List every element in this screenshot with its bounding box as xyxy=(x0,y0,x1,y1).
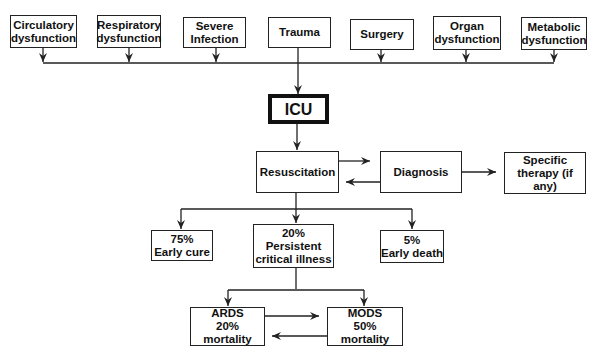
cause-severe-infection: Severe Infection xyxy=(183,17,246,48)
specific-therapy-box: Specific therapy (if any) xyxy=(504,152,586,194)
diagnosis-box: Diagnosis xyxy=(380,151,462,193)
outcome-label: 75% Early cure xyxy=(154,233,210,259)
cause-surgery: Surgery xyxy=(350,19,414,50)
outcome-persistent-critical-illness: 20% Persistent critical illness xyxy=(253,224,334,268)
complication-label: ARDS 20% mortality xyxy=(191,307,264,346)
cause-respiratory-dysfunction: Respiratory dysfunction xyxy=(97,15,161,48)
outcome-label: 5% Early death xyxy=(381,234,443,260)
outcome-early-cure: 75% Early cure xyxy=(151,230,213,261)
cause-organ-dysfunction: Organ dysfunction xyxy=(433,16,501,50)
cause-label: Trauma xyxy=(279,26,320,39)
cause-circulatory-dysfunction: Circulatory dysfunction xyxy=(10,15,77,48)
specific-therapy-label: Specific therapy (if any) xyxy=(505,154,585,193)
icu-label: ICU xyxy=(285,103,313,116)
resuscitation-box: Resuscitation xyxy=(256,151,339,193)
outcome-label: 20% Persistent critical illness xyxy=(255,227,331,266)
cause-label: Circulatory dysfunction xyxy=(11,19,76,45)
resuscitation-label: Resuscitation xyxy=(260,166,335,179)
complication-ards: ARDS 20% mortality xyxy=(190,307,265,346)
cause-label: Surgery xyxy=(360,28,403,41)
cause-trauma: Trauma xyxy=(268,17,331,48)
cause-metabolic-dysfunction: Metabolic dysfunction xyxy=(521,17,587,50)
cause-label: Metabolic dysfunction xyxy=(521,21,586,47)
complication-label: MODS 50% mortality xyxy=(328,307,402,346)
cause-label: Organ dysfunction xyxy=(434,20,499,46)
cause-label: Severe Infection xyxy=(191,20,239,46)
icu-box: ICU xyxy=(268,94,329,124)
outcome-early-death: 5% Early death xyxy=(380,230,444,263)
diagnosis-label: Diagnosis xyxy=(394,166,449,179)
cause-label: Respiratory dysfunction xyxy=(96,19,161,45)
complication-mods: MODS 50% mortality xyxy=(327,307,403,346)
